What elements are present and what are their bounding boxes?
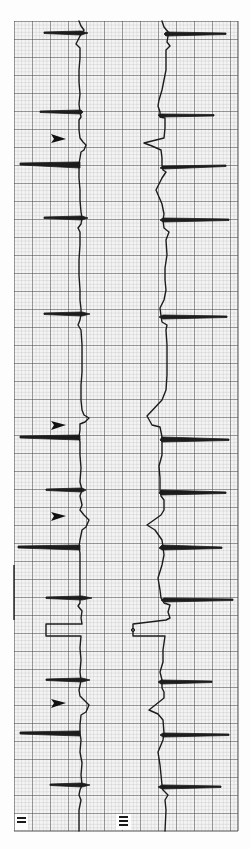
lead-label-ii [17,817,26,825]
lead-label-iii [119,816,128,828]
grid-paper [14,21,238,831]
ecg-graph [0,0,250,849]
ecg-strip-figure [0,0,250,849]
